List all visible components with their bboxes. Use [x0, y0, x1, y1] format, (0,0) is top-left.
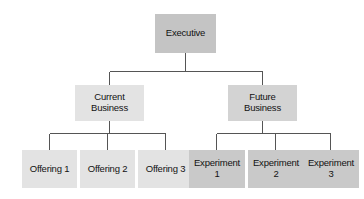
node-future-business-label: Future Business	[242, 92, 283, 113]
node-current-business-label: Current Business	[89, 92, 130, 113]
node-experiment-2[interactable]: Experiment 2	[248, 150, 304, 188]
node-experiment-2-label: Experiment 2	[251, 158, 301, 179]
node-executive[interactable]: Executive	[155, 14, 216, 53]
node-offering-1[interactable]: Offering 1	[22, 150, 77, 188]
node-offering-2[interactable]: Offering 2	[80, 150, 135, 188]
node-offering-3[interactable]: Offering 3	[138, 150, 193, 188]
node-experiment-3-label: Experiment 3	[306, 158, 356, 179]
node-offering-3-label: Offering 3	[144, 164, 188, 175]
node-executive-label: Executive	[164, 28, 207, 39]
node-current-business[interactable]: Current Business	[75, 85, 144, 121]
org-chart: Executive Current Business Future Busine…	[0, 0, 364, 199]
node-offering-1-label: Offering 1	[28, 164, 72, 175]
node-experiment-3[interactable]: Experiment 3	[303, 150, 359, 188]
node-experiment-1[interactable]: Experiment 1	[189, 150, 245, 188]
node-offering-2-label: Offering 2	[86, 164, 130, 175]
node-future-business[interactable]: Future Business	[228, 85, 297, 121]
node-experiment-1-label: Experiment 1	[192, 158, 242, 179]
